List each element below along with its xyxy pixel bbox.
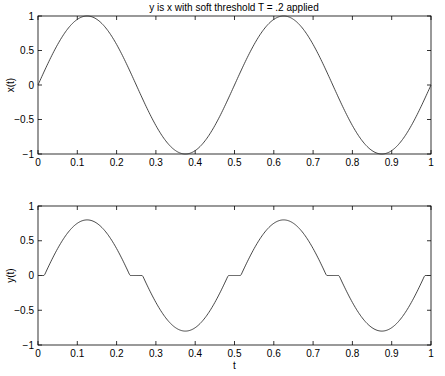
x-tick-label: 0.9: [385, 348, 399, 359]
x-tick-label: 0.3: [149, 348, 163, 359]
y-tick-label: −0.5: [14, 305, 34, 316]
x-tick-label: 0.1: [70, 348, 84, 359]
x-tick-label: 0.3: [149, 157, 163, 168]
x-tick-label: 0.2: [110, 157, 124, 168]
y-tick-label: 1: [28, 201, 34, 212]
figure: y is x with soft threshold T = .2 applie…: [0, 0, 445, 376]
top-axes-x-of-t: 00.10.20.30.40.50.60.70.80.91−1−0.500.51…: [5, 11, 434, 169]
x-tick-label: 0.6: [267, 348, 281, 359]
x-tick-label: 0.1: [70, 157, 84, 168]
y-tick-label: 1: [28, 11, 34, 22]
x-tick-label: 0.8: [345, 157, 359, 168]
x-tick-label: 1: [428, 348, 434, 359]
series-line-xt: [38, 16, 431, 154]
y-tick-label: 0.5: [20, 235, 34, 246]
y-axis-label: y(t): [5, 268, 16, 282]
y-tick-label: 0.5: [20, 45, 34, 56]
x-tick-label: 0.2: [110, 348, 124, 359]
y-tick-label: −0.5: [14, 114, 34, 125]
x-tick-label: 0.6: [267, 157, 281, 168]
y-tick-label: 0: [28, 270, 34, 281]
x-tick-label: 0.4: [188, 157, 202, 168]
x-tick-label: 0.8: [345, 348, 359, 359]
x-tick-label: 0: [35, 157, 41, 168]
x-axis-label: t: [233, 360, 236, 371]
y-tick-label: −1: [23, 340, 35, 351]
x-tick-label: 0.7: [306, 157, 320, 168]
x-tick-label: 0.7: [306, 348, 320, 359]
chart-title: y is x with soft threshold T = .2 applie…: [149, 2, 318, 13]
x-tick-label: 0.5: [228, 348, 242, 359]
y-axis-label: x(t): [5, 78, 16, 92]
x-tick-label: 0.9: [385, 157, 399, 168]
x-tick-label: 0: [35, 348, 41, 359]
y-tick-label: −1: [23, 149, 35, 160]
x-tick-label: 1: [428, 157, 434, 168]
y-tick-label: 0: [28, 80, 34, 91]
x-tick-label: 0.4: [188, 348, 202, 359]
bottom-axes-y-of-t: 00.10.20.30.40.50.60.70.80.91−1−0.500.51…: [5, 201, 434, 372]
x-tick-label: 0.5: [228, 157, 242, 168]
series-line-yt: [38, 220, 431, 331]
